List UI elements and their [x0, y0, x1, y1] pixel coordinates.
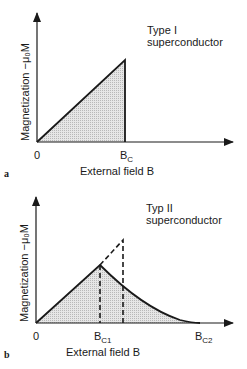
panel-title-line1: Typ II: [146, 202, 173, 214]
panel-title-line1: Type I: [147, 24, 177, 36]
type2-shaded-area: [36, 265, 200, 323]
y-axis-label: Magnetization −μ₀M: [18, 224, 30, 322]
origin-tick: 0: [34, 149, 40, 161]
origin-tick: 0: [33, 330, 39, 342]
x-axis-label: External field B: [80, 165, 154, 177]
bc-tick: BC: [120, 149, 133, 164]
panel-label-b: b: [4, 349, 10, 360]
panel-title-line2: superconductor: [146, 214, 222, 226]
panel-title-line2: superconductor: [147, 36, 223, 48]
y-axis-label: Magnetization −μ₀M: [19, 43, 31, 141]
panel-label-a: a: [4, 168, 9, 179]
x-axis-label: External field B: [66, 346, 140, 358]
panel-b: Typ II superconductor Magnetization −μ₀M…: [4, 197, 233, 360]
panel-a: Type I superconductor Magnetization −μ₀M…: [4, 13, 233, 179]
bc1-tick: BC1: [94, 330, 112, 345]
superconductor-magnetization-diagram: Type I superconductor Magnetization −μ₀M…: [0, 0, 247, 369]
bc2-tick: BC2: [195, 330, 213, 345]
